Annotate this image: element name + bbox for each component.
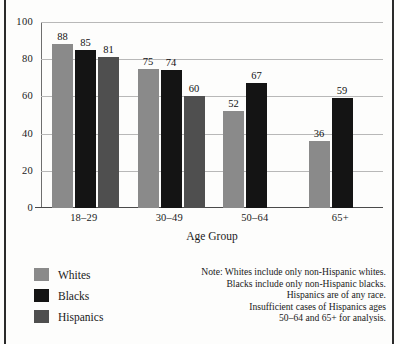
bar-slot: 67 — [246, 22, 267, 208]
bar-value-label: 59 — [337, 85, 348, 96]
legend-swatch — [34, 268, 49, 281]
bar[interactable] — [223, 111, 244, 208]
bar[interactable] — [98, 57, 119, 208]
x-axis-tick-label: 50–64 — [210, 212, 300, 223]
chart-page: 020406080100 88858175746052673659 18–293… — [0, 0, 400, 344]
bar-value-label: 75 — [143, 56, 154, 67]
legend-item-label: Whites — [58, 269, 91, 281]
chart-note: Note: Whites include only non-Hispanic w… — [186, 266, 386, 324]
legend-item-label: Blacks — [58, 290, 89, 302]
page-border-right — [392, 0, 394, 344]
chart-note-line: Blacks include only non-Hispanic blacks. — [186, 278, 386, 290]
chart-legend: WhitesBlacksHispanics — [34, 264, 174, 327]
bar-slot: 88 — [52, 22, 73, 208]
bar[interactable] — [75, 50, 96, 208]
x-axis-tick-label: 18–29 — [39, 212, 129, 223]
legend-item-label: Hispanics — [58, 311, 103, 323]
y-axis-tick-label: 40 — [0, 129, 33, 139]
x-axis-title: Age Group — [41, 230, 383, 242]
bar-group-bars: 5267 — [212, 22, 298, 208]
bar-value-label: 67 — [251, 70, 262, 81]
bar-value-label: 88 — [57, 31, 68, 42]
bar-value-label: 85 — [80, 37, 91, 48]
bar-slot: 60 — [184, 22, 205, 208]
bar[interactable] — [309, 141, 330, 208]
bar[interactable] — [138, 69, 159, 209]
bar-value-label: 60 — [189, 83, 200, 94]
bar-value-label: 74 — [166, 57, 177, 68]
bar-slot: 36 — [309, 22, 330, 208]
y-axis-tick-label: 80 — [0, 54, 33, 64]
y-axis-tick-label: 60 — [0, 91, 33, 101]
bar-group-bars: 888581 — [41, 22, 127, 208]
x-axis-tick-label: 65+ — [295, 212, 385, 223]
bar-slot: 75 — [138, 22, 159, 208]
bar-slot: 52 — [223, 22, 244, 208]
chart-note-line: Insufficient cases of Hispanics ages — [186, 301, 386, 313]
bar-slot: 74 — [161, 22, 182, 208]
legend-item[interactable]: Whites — [34, 264, 174, 285]
bar-value-label: 81 — [103, 44, 114, 55]
bar[interactable] — [332, 98, 353, 208]
bar-value-label: 36 — [314, 128, 325, 139]
bar-value-label: 52 — [228, 98, 239, 109]
bar-groups: 88858175746052673659 — [41, 22, 383, 208]
bar[interactable] — [246, 83, 267, 208]
y-axis-tick-label: 0 — [0, 203, 33, 213]
bar[interactable] — [161, 70, 182, 208]
chart-note-line: Hispanics are of any race. — [186, 289, 386, 301]
bar-group: 3659 — [298, 22, 384, 208]
bar[interactable] — [184, 96, 205, 208]
bar-slot: 81 — [98, 22, 119, 208]
bar-group: 888581 — [41, 22, 127, 208]
bar-group-bars: 3659 — [298, 22, 384, 208]
x-axis-tick-label: 30–49 — [124, 212, 214, 223]
plot-area: 88858175746052673659 — [41, 22, 383, 208]
legend-item[interactable]: Hispanics — [34, 306, 174, 327]
legend-swatch — [34, 289, 49, 302]
bar-slot: 59 — [332, 22, 353, 208]
bar-slot: 85 — [75, 22, 96, 208]
bar-group: 757460 — [127, 22, 213, 208]
y-axis-tick-label: 20 — [0, 166, 33, 176]
legend-item[interactable]: Blacks — [34, 285, 174, 306]
chart-note-line: Note: Whites include only non-Hispanic w… — [186, 266, 386, 278]
bar[interactable] — [52, 44, 73, 208]
bar-group-bars: 757460 — [127, 22, 213, 208]
y-axis-tick-label: 100 — [0, 17, 33, 27]
bar-group: 5267 — [212, 22, 298, 208]
legend-swatch — [34, 310, 49, 323]
chart-note-line: 50–64 and 65+ for analysis. — [186, 312, 386, 324]
